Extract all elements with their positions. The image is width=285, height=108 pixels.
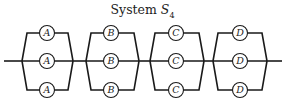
component-label: C — [172, 27, 180, 38]
component-label: B — [107, 55, 115, 66]
component-label: C — [172, 55, 180, 66]
component-label: A — [43, 84, 51, 95]
component-label: B — [107, 27, 115, 38]
component-label: D — [235, 55, 244, 66]
component-label: D — [235, 84, 244, 95]
component-label: C — [172, 84, 180, 95]
component-label: D — [235, 27, 244, 38]
component-label: A — [43, 55, 51, 66]
component-label: B — [107, 84, 115, 95]
component-label: A — [43, 27, 51, 38]
series-parallel-diagram: AAABBBCCCDDD — [0, 0, 285, 108]
